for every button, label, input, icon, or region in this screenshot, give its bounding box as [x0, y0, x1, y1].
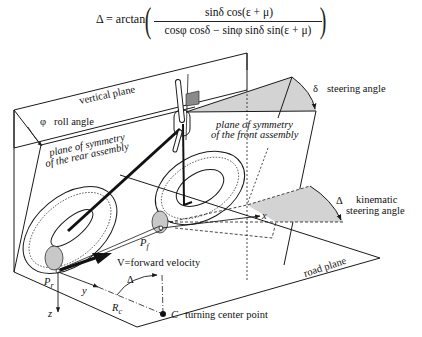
turning-center-symbol: C — [171, 309, 179, 320]
steering-angle-sector — [186, 77, 316, 118]
x-axis-label: x — [261, 210, 267, 221]
radius-label: Rc — [111, 302, 122, 316]
z-axis-label: z — [47, 308, 52, 319]
front-contact-label: Pf — [139, 237, 150, 251]
steering-angle-symbol: δ — [313, 83, 318, 94]
delta-arc-label: Δ — [127, 274, 134, 285]
kinematic-label-1: kinematic — [356, 194, 398, 205]
front-plane-label-2: of the front assembly — [211, 129, 299, 140]
road-plane-label: road plane — [302, 255, 348, 279]
turning-center-label: turning center point — [185, 309, 268, 320]
diagram-svg: vertical plane φ roll angle plane of sym… — [0, 0, 422, 337]
roll-angle-symbol: φ — [40, 116, 46, 127]
velocity-label: V=forward velocity — [117, 257, 201, 268]
roll-angle-label: roll angle — [54, 116, 94, 127]
velocity-arrow — [60, 253, 112, 270]
kinematic-label-2: steering angle — [346, 205, 405, 216]
kinematic-angle-symbol: Δ — [336, 195, 343, 206]
y-axis-label: y — [81, 285, 87, 296]
steering-angle-label: steering angle — [327, 83, 386, 94]
bicycle-kinematics-diagram: Δ = arctan ( sinδ cos(ε + μ) cosφ cosδ −… — [0, 0, 422, 337]
